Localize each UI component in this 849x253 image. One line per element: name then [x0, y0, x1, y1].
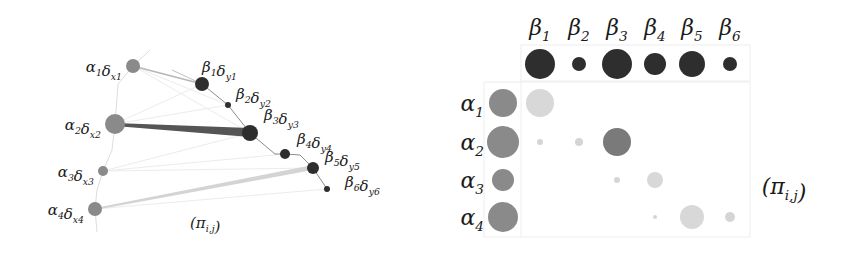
coupling-cell-2-3 — [603, 128, 631, 156]
edge-a2-b3 — [115, 123, 250, 137]
alpha-weight-dot-4 — [488, 202, 518, 232]
column-header-beta-3: β3 — [605, 15, 628, 44]
left-panel: α1δx1α2δx2α3δx3α4δx4β1δy1β2δy2β3δy3β4δy4… — [48, 50, 380, 236]
alpha-weight-dot-3 — [492, 169, 514, 191]
edge-a4-b5 — [95, 165, 313, 210]
coupling-cell-4-4 — [653, 215, 657, 219]
coupling-cell-3-3 — [614, 177, 620, 183]
coupling-cell-1-1 — [526, 89, 554, 117]
beta-node-1 — [195, 77, 209, 91]
column-header-beta-6: β6 — [718, 15, 741, 44]
beta-weight-dot-3 — [602, 49, 632, 79]
alpha-node-4 — [88, 202, 102, 216]
alpha-label-2: α2δx2 — [65, 116, 101, 140]
edge-a1-b1 — [133, 66, 202, 84]
row-header-alpha-1: α1 — [460, 91, 484, 120]
beta-weight-dot-6 — [723, 57, 737, 71]
row-header-alpha-2: α2 — [460, 130, 484, 159]
row-header-alpha-3: α3 — [460, 168, 484, 197]
column-header-beta-2: β2 — [567, 15, 589, 44]
column-header-beta-4: β4 — [643, 15, 665, 44]
beta-label-2: β2δy2 — [235, 85, 271, 109]
left-caption-pi: (πi,j) — [190, 214, 221, 236]
beta-label-6: β6δy6 — [344, 173, 380, 197]
beta-label-1: β1δy1 — [201, 58, 237, 82]
alpha-label-3: α3δx3 — [58, 163, 94, 187]
alpha-weight-dot-1 — [489, 89, 517, 117]
coupling-cell-4-5 — [680, 205, 704, 229]
alpha-weight-dot-2 — [487, 126, 519, 158]
beta-weight-dot-4 — [644, 53, 666, 75]
beta-label-5: β5δy5 — [324, 148, 360, 172]
beta-weight-dot-5 — [679, 51, 705, 77]
beta-weight-dot-2 — [572, 57, 586, 71]
beta-node-2 — [225, 102, 231, 108]
beta-label-3: β3δy3 — [263, 106, 299, 130]
alpha-node-2 — [105, 114, 125, 134]
coupling-cell-2-2 — [575, 138, 583, 146]
column-header-beta-5: β5 — [680, 15, 702, 44]
right-panel: β1β2β3β4β5β6α1α2α3α4(πi,j) — [460, 15, 806, 237]
alpha-node-3 — [98, 166, 108, 176]
alpha-node-1 — [126, 59, 140, 73]
alpha-label-1: α1δx1 — [86, 58, 122, 82]
optimal-transport-figure: α1δx1α2δx2α3δx3α4δx4β1δy1β2δy2β3δy3β4δy4… — [0, 0, 849, 253]
alpha-label-4: α4δx4 — [48, 201, 84, 225]
coupling-cell-3-4 — [647, 172, 663, 188]
beta-node-5 — [307, 162, 319, 174]
column-header-beta-1: β1 — [528, 15, 550, 44]
beta-weight-dot-1 — [525, 49, 555, 79]
right-caption-pi: (πi,j) — [762, 174, 807, 205]
beta-node-4 — [280, 149, 290, 159]
beta-node-3 — [242, 125, 258, 141]
coupling-cell-4-6 — [725, 212, 735, 222]
beta-node-6 — [324, 186, 330, 192]
row-header-alpha-4: α4 — [460, 205, 484, 234]
coupling-cell-2-1 — [537, 139, 543, 145]
